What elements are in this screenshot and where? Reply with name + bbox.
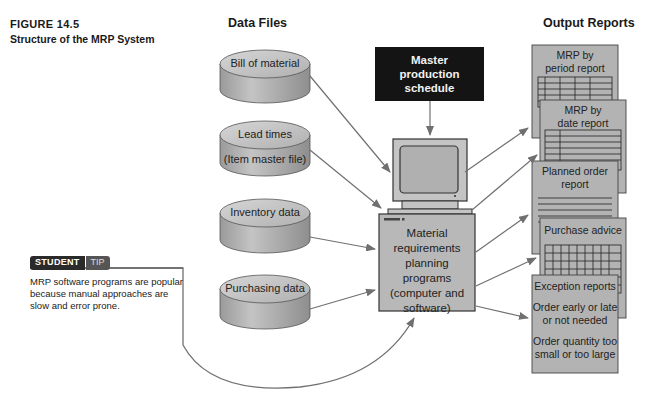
mrp-line: (computer and (379, 286, 475, 301)
data-file-bill-of-material: Bill of material (220, 57, 310, 69)
report-planned-title: Planned order report (532, 165, 618, 191)
exception-item: Order quantity too (532, 335, 618, 348)
report-purchase-title: Purchase advice (540, 224, 626, 237)
exception-item: or not needed (532, 314, 618, 327)
badge-tip: TIP (86, 256, 110, 270)
arrow-inventory-to-mrp (310, 237, 375, 249)
report-title-line: Planned order (532, 165, 618, 178)
badge-student: STUDENT (30, 256, 85, 270)
mrp-program-label: Material requirements planning programs … (379, 226, 475, 316)
arrow-purchasing-to-mrp (310, 290, 375, 309)
arrow-to-period-report (465, 128, 528, 172)
report-date-title: MRP by date report (540, 104, 626, 130)
mrp-line: Material (379, 226, 475, 241)
arrow-to-date-report (472, 155, 537, 210)
mrp-line: software) (379, 301, 475, 316)
report-title-line: date report (540, 117, 626, 130)
exception-title: Exception reports (532, 280, 618, 293)
mps-line1: Master (375, 53, 484, 67)
computer-monitor-icon (388, 139, 472, 214)
arrow-to-exception (476, 306, 528, 318)
student-tip-text: MRP software programs are popular becaus… (30, 276, 185, 312)
data-file-inventory: Inventory data (220, 206, 310, 218)
mrp-line: requirements (379, 241, 475, 256)
master-production-schedule-box: Master production schedule (375, 47, 484, 101)
report-title-line: period report (532, 62, 618, 75)
report-title-line: MRP by (540, 104, 626, 117)
report-exception-content: Exception reports Order early or late or… (532, 280, 618, 361)
mps-line2: production schedule (375, 67, 484, 95)
arrow-to-planned-order (476, 215, 528, 252)
mrp-line: planning (379, 256, 475, 271)
report-title-line: report (532, 178, 618, 191)
report-title-line: MRP by (532, 49, 618, 62)
exception-item: Order early or late (532, 301, 618, 314)
data-file-lead-times: Lead times (220, 128, 310, 140)
student-tip-badge: STUDENT TIP (30, 256, 110, 270)
mrp-line: programs (379, 271, 475, 286)
exception-item: small or too large (532, 348, 618, 361)
report-period-title: MRP by period report (532, 49, 618, 75)
arrow-leadtimes-to-mrp (310, 150, 381, 208)
data-file-lead-times-sub: (Item master file) (218, 153, 312, 165)
data-file-purchasing: Purchasing data (220, 282, 310, 294)
arrow-to-purchase-advice (476, 258, 536, 286)
